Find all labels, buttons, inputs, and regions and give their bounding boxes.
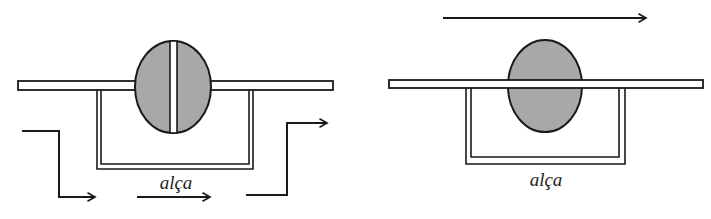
right-rod: [389, 80, 703, 88]
right-loop-label: alça: [530, 169, 563, 190]
left-flow-arrow-out: [246, 123, 327, 195]
right-panel: alça: [389, 18, 703, 190]
left-loop-label: alça: [160, 172, 193, 193]
left-flow-arrow-in: [22, 131, 95, 197]
left-panel: alça: [18, 41, 333, 197]
diagram-canvas: alça alça: [0, 0, 711, 219]
left-split-disc: [135, 41, 211, 133]
